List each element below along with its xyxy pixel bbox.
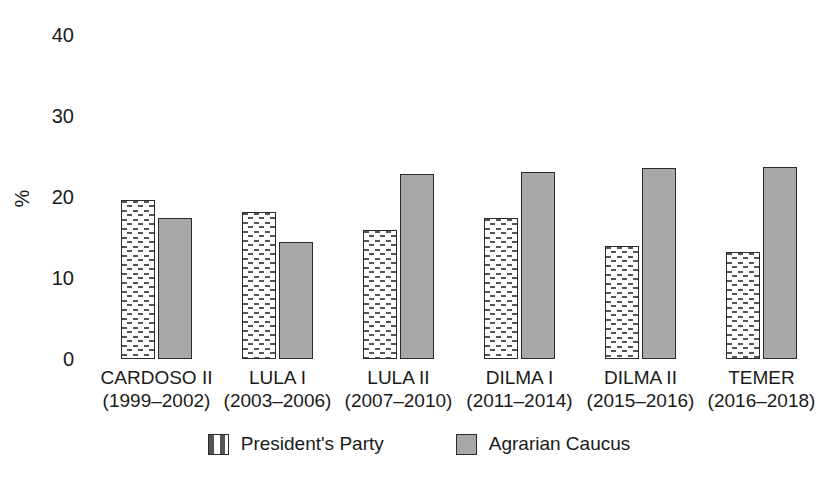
legend-swatch-presidents-party [208,434,229,455]
bar-agrarian-caucus[interactable] [521,172,555,359]
y-tick-label-0: 0 [22,349,74,369]
y-tick-label-30: 30 [22,106,74,126]
bar-presidents-party[interactable] [121,200,155,359]
legend-swatch-agrarian-caucus [456,434,477,455]
x-axis-label-years: (2016–2018) [679,389,838,412]
bar-agrarian-caucus[interactable] [642,168,676,359]
x-axis-label-group: TEMER(2016–2018) [679,366,838,412]
bar-agrarian-caucus[interactable] [400,174,434,359]
bar-group [217,26,338,359]
bar-agrarian-caucus[interactable] [763,167,797,359]
y-tick-label-20: 20 [22,187,74,207]
bar-group [459,26,580,359]
bar-presidents-party[interactable] [363,230,397,359]
x-axis-label-name: TEMER [679,366,838,389]
bar-presidents-party[interactable] [605,246,639,359]
bar-group [580,26,701,359]
bar-group [701,26,822,359]
chart-legend: President's PartyAgrarian Caucus [0,433,838,455]
bar-presidents-party[interactable] [484,218,518,359]
legend-label: President's Party [241,433,384,455]
bar-group [338,26,459,359]
legend-entry[interactable]: Agrarian Caucus [456,433,631,455]
plot-area [96,26,822,359]
bar-presidents-party[interactable] [726,252,760,359]
y-tick-label-10: 10 [22,268,74,288]
legend-entry[interactable]: President's Party [208,433,384,455]
legend-label: Agrarian Caucus [489,433,631,455]
bar-agrarian-caucus[interactable] [279,242,313,359]
bar-presidents-party[interactable] [242,212,276,359]
y-tick-label-40: 40 [22,25,74,45]
bar-agrarian-caucus[interactable] [158,218,192,359]
bar-group [96,26,217,359]
bar-chart-figure: % 403020100 CARDOSO II(1999–2002)LULA I(… [0,0,838,480]
